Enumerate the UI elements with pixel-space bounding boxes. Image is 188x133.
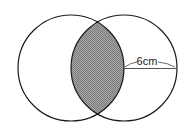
dimension-arc-right <box>158 62 175 67</box>
venn-diagram: 6cm <box>0 0 188 133</box>
radius-label: 6cm <box>137 55 158 67</box>
dimension-arc-left <box>125 62 137 67</box>
